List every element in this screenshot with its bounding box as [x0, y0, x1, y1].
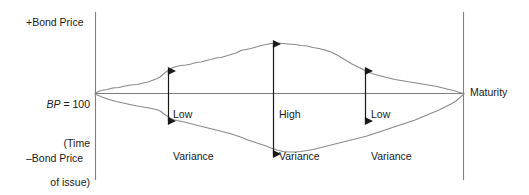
axis-label-positive-bond-price: +Bond Price [26, 16, 84, 29]
annotation-high-variance-center: High Variance [279, 79, 320, 191]
bp-symbol: BP [46, 98, 60, 110]
annotation-high-variance-center-line-1: High [279, 107, 320, 121]
annotation-high-variance-center-line-2: Variance [279, 149, 320, 163]
bp-value: = 100 [61, 98, 91, 110]
annotation-low-variance-left-line-1: Low [173, 107, 214, 121]
axis-label-maturity: Maturity [470, 86, 507, 99]
bond-price-variance-figure: +Bond Price BP = 100 (Time of issue) –Bo… [0, 0, 529, 195]
annotation-low-variance-right: Low Variance [371, 79, 412, 191]
annotation-low-variance-left-line-2: Variance [173, 149, 214, 163]
origin-label-line-1: BP = 100 [18, 98, 90, 111]
axis-label-origin-bp-100: BP = 100 (Time of issue) [18, 72, 90, 195]
annotation-low-variance-right-line-2: Variance [371, 149, 412, 163]
annotation-low-variance-left: Low Variance [173, 79, 214, 191]
origin-label-line-2: (Time [18, 137, 90, 150]
origin-label-line-3: of issue) [18, 176, 90, 189]
axis-label-negative-bond-price: –Bond Price [26, 152, 83, 165]
annotation-low-variance-right-line-1: Low [371, 107, 412, 121]
